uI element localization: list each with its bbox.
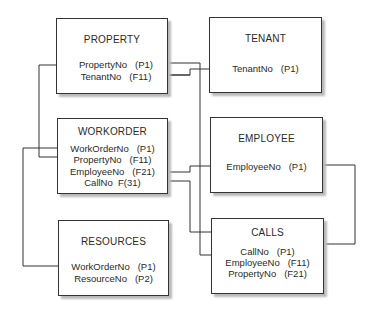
table-title: EMPLOYEE — [211, 133, 322, 144]
field-tenantno: TenantNo (P1) — [210, 63, 321, 74]
table-employee: EMPLOYEE EmployeeNo (P1) — [210, 117, 323, 193]
field-workorderno: WorkOrderNo (P1) — [59, 261, 168, 272]
field-workorderno: WorkOrderNo (P1) — [58, 143, 167, 154]
table-workorder: WORKORDER WorkOrderNo (P1) PropertyNo (F… — [57, 118, 168, 194]
field-employeeno: EmployeeNo (F21) — [58, 166, 167, 177]
field-employeeno: EmployeeNo (P1) — [211, 161, 322, 172]
field-callno: CallNo (P1) — [212, 246, 323, 257]
field-callno: CallNo F(31) — [58, 177, 167, 188]
field-propertyno: PropertyNo (P1) — [65, 59, 167, 70]
table-title: RESOURCES — [59, 236, 168, 247]
field-propertyno: PropertyNo (F11) — [58, 154, 167, 165]
table-tenant: TENANT TenantNo (P1) — [209, 17, 322, 93]
field-employeeno: EmployeeNo (F11) — [212, 257, 323, 268]
field-tenantno: TenantNo (F11) — [65, 71, 167, 82]
table-calls: CALLS CallNo (P1) EmployeeNo (F11) Prope… — [211, 218, 324, 294]
field-propertyno: PropertyNo (F21) — [212, 268, 323, 279]
field-resourceno: ResourceNo (P2) — [59, 273, 168, 284]
table-title: TENANT — [210, 33, 321, 44]
table-resources: RESOURCES WorkOrderNo (P1) ResourceNo (P… — [58, 220, 169, 296]
table-title: WORKORDER — [58, 126, 167, 137]
table-property: PROPERTY PropertyNo (P1) TenantNo (F11) — [56, 18, 168, 94]
table-title: CALLS — [212, 227, 323, 238]
table-title: PROPERTY — [57, 34, 167, 45]
